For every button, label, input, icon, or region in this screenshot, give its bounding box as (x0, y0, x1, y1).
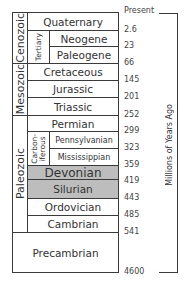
period-label: Permian (52, 118, 95, 130)
bracket-bottom (159, 272, 178, 273)
age-label: 485 (124, 210, 139, 219)
period-label: Devonian (45, 166, 102, 180)
subperiod-carboniferous: Carbon- iferous (27, 131, 50, 166)
era-label: Mesozoic (14, 64, 27, 114)
period-label: Jurassic (53, 83, 93, 95)
period-label: Silurian (53, 183, 92, 195)
age-label: 201 (124, 92, 139, 101)
period-devonian: Devonian (27, 165, 119, 180)
subperiod-label: Carbon- iferous (31, 134, 47, 164)
period-cambrian: Cambrian (27, 215, 119, 233)
period-label: Pennsylvanian (55, 136, 113, 145)
period-triassic: Triassic (27, 97, 119, 116)
subperiod-tertiary: Tertiary (27, 30, 50, 64)
axis-label: Millions of Years Ago (163, 80, 175, 210)
period-label: Precambrian (32, 247, 98, 259)
period-pennsylvanian: Pennsylvanian (49, 131, 119, 149)
period-cretaceous: Cretaceous (27, 63, 119, 81)
period-quaternary: Quaternary (27, 12, 119, 31)
period-label: Ordovician (45, 201, 101, 213)
age-label: 541 (124, 227, 139, 236)
age-label: 419 (124, 176, 139, 185)
period-label: Cambrian (48, 218, 99, 230)
era-mesozoic: Mesozoic (12, 63, 28, 116)
period-label: Neogene (61, 33, 108, 45)
age-label: 443 (124, 193, 139, 202)
axis-label-text: Millions of Years Ago (165, 104, 174, 186)
period-label: Mississippian (58, 153, 111, 162)
age-label: Present (124, 6, 154, 15)
age-label: 145 (124, 75, 139, 84)
period-mississippian: Mississippian (49, 148, 119, 166)
period-silurian: Silurian (27, 179, 119, 199)
period-precambrian: Precambrian (12, 232, 119, 273)
bracket-top (159, 13, 178, 14)
period-neogene: Neogene (49, 30, 119, 47)
age-label: 66 (124, 58, 134, 67)
era-cenozoic: Cenozoic (12, 12, 28, 64)
period-permian: Permian (27, 115, 119, 132)
period-label: Quaternary (43, 16, 103, 28)
age-label: 2.6 (124, 25, 137, 34)
era-label: Cenozoic (14, 13, 27, 63)
era-paleozoic: Paleozoic (12, 115, 28, 233)
age-label: 359 (124, 160, 139, 169)
age-label: 23 (124, 41, 134, 50)
period-ordovician: Ordovician (27, 198, 119, 216)
age-label: 299 (124, 126, 139, 135)
period-jurassic: Jurassic (27, 80, 119, 98)
age-label: 323 (124, 143, 139, 152)
period-label: Paleogene (57, 49, 111, 61)
age-label: 252 (124, 110, 139, 119)
subperiod-label: Tertiary (35, 33, 43, 61)
period-paleogene: Paleogene (49, 46, 119, 64)
period-label: Cretaceous (43, 66, 102, 78)
bracket-vertical (177, 13, 178, 273)
era-label: Paleozoic (14, 148, 27, 199)
period-label: Triassic (54, 101, 92, 113)
age-label: 4600 (124, 267, 144, 276)
